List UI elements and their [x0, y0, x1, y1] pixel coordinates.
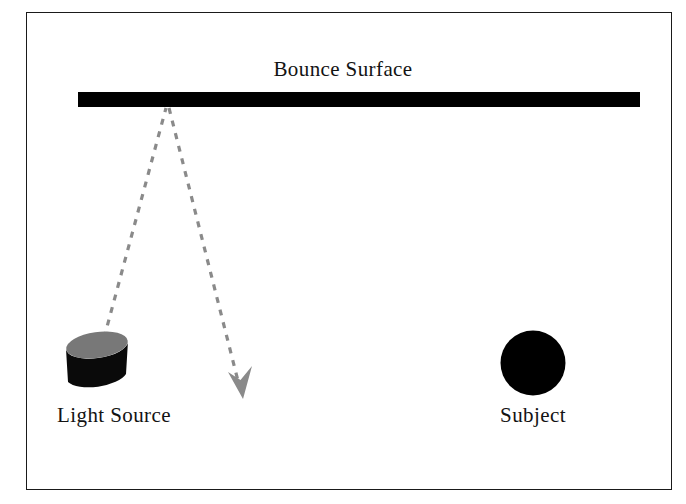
reflected-ray-arrowhead-icon [228, 366, 252, 399]
bounce-surface-bar [78, 92, 640, 107]
bounce-surface-label: Bounce Surface [0, 57, 686, 82]
subject-circle [501, 331, 566, 396]
light-source-label: Light Source [0, 403, 228, 428]
incident-ray-dashed-line [104, 108, 166, 338]
subject-label: Subject [443, 403, 623, 428]
bounce-lighting-diagram: Bounce Surface Light Source Subject [0, 0, 686, 504]
light-source-cylinder [64, 328, 129, 388]
reflected-ray-dashed-line [169, 108, 238, 381]
